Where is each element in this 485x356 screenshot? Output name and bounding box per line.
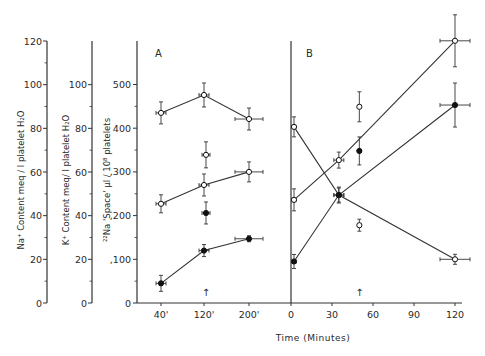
open-circle-icon <box>452 38 457 43</box>
y-axis-label-na: Na⁺ Content meq / l platelet H₂O <box>16 110 26 249</box>
data-point-open <box>440 15 470 67</box>
open-circle-icon <box>203 152 208 157</box>
data-point-open <box>199 174 209 196</box>
x-tick-label: 90 <box>408 309 420 320</box>
filled-circle-icon <box>203 210 208 215</box>
y-tick-label: 80 <box>75 123 87 134</box>
axes: 0204060801001200204060801000,100,200,300… <box>24 36 464 321</box>
y-tick-label: 120 <box>24 36 42 47</box>
data-point-open <box>156 195 166 213</box>
open-circle-icon <box>291 124 296 129</box>
y-tick-label: 60 <box>75 167 87 178</box>
data-point-filled <box>156 275 166 291</box>
filled-circle-icon <box>246 236 251 241</box>
data-point-open <box>235 162 263 182</box>
panel-label-a: A <box>155 48 162 59</box>
open-circle-icon <box>336 158 341 163</box>
x-axis-label: Time (Minutes) <box>275 333 350 343</box>
filled-circle-icon <box>158 281 163 286</box>
y-tick-label: ,100 <box>110 254 131 265</box>
x-tick-label: 40' <box>154 309 169 320</box>
data-point-open <box>202 142 210 168</box>
data-point-filled <box>291 254 296 268</box>
panel-label-b: B <box>306 48 313 59</box>
y-axis-label-k: K⁺ Content meq/ l platelet H₂O <box>61 114 71 245</box>
data-point-filled <box>199 245 209 257</box>
series-line <box>294 41 455 200</box>
y-tick-label: 400 <box>113 123 131 134</box>
y-tick-label: 40 <box>75 210 87 221</box>
chart-figure: 0204060801001200204060801000,100,200,300… <box>0 0 485 356</box>
data-point-open <box>199 83 209 107</box>
y-tick-label: 0 <box>125 298 131 309</box>
series-line <box>294 127 455 259</box>
open-circle-icon <box>158 201 163 206</box>
y-tick-label: 100 <box>24 79 42 90</box>
filled-circle-icon <box>291 259 296 264</box>
series-line <box>161 239 249 284</box>
data-point-open <box>291 117 296 137</box>
data-point-open <box>235 108 263 130</box>
data-point-open <box>357 92 362 122</box>
open-circle-icon <box>291 197 296 202</box>
x-tick-label: 200' <box>239 309 260 320</box>
open-circle-icon <box>158 110 163 115</box>
y-axis-label-na-space: ²²Na 'Space' µl / 10⁸ platelets <box>102 117 112 242</box>
arrow-icon: ↑ <box>202 287 210 298</box>
filled-circle-icon <box>357 148 362 153</box>
data-point-open <box>334 152 344 168</box>
x-tick-label: 0 <box>288 309 294 320</box>
data-point-open <box>440 254 470 264</box>
open-circle-icon <box>357 223 362 228</box>
open-circle-icon <box>246 116 251 121</box>
open-circle-icon <box>201 182 206 187</box>
filled-circle-icon <box>336 192 341 197</box>
x-tick-label: 30 <box>326 309 338 320</box>
y-tick-label: 100 <box>69 79 87 90</box>
arrow-icon: ↑ <box>355 287 363 298</box>
open-circle-icon <box>357 104 362 109</box>
y-tick-label: 0 <box>36 298 42 309</box>
y-tick-label: 20 <box>75 254 87 265</box>
y-tick-label: ,200 <box>110 210 131 221</box>
filled-circle-icon <box>452 102 457 107</box>
open-circle-icon <box>246 169 251 174</box>
open-circle-icon <box>452 257 457 262</box>
open-circle-icon <box>201 92 206 97</box>
data-point-open <box>291 189 296 211</box>
data-point-open <box>156 102 166 124</box>
x-tick-label: 120 <box>446 309 464 320</box>
data-point-filled <box>202 202 210 224</box>
data-point-filled <box>440 83 470 127</box>
y-tick-label: 0 <box>81 298 87 309</box>
plot-area: ↑↑ <box>156 15 470 298</box>
y-tick-label: 20 <box>30 254 42 265</box>
series-line <box>294 105 455 261</box>
x-tick-label: 60 <box>367 309 379 320</box>
data-point-open <box>357 219 362 231</box>
y-tick-label: 80 <box>30 123 42 134</box>
x-tick-label: 120' <box>194 309 215 320</box>
y-tick-label: 40 <box>30 210 42 221</box>
filled-circle-icon <box>201 248 206 253</box>
y-tick-label: 60 <box>30 167 42 178</box>
y-tick-label: 500 <box>113 79 131 90</box>
y-tick-label: ,300 <box>110 166 131 177</box>
